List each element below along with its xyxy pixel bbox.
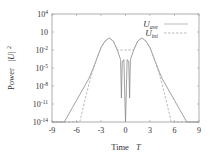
y-tick-label: 10-11 <box>33 99 48 109</box>
x-axis-ticks: -9-6-30369 <box>49 14 201 135</box>
y-tick-label: 10-5 <box>35 63 48 73</box>
x-tick-label: 0 <box>124 126 128 135</box>
x-tick-label: -9 <box>49 126 56 135</box>
x-tick-label: 3 <box>148 126 152 135</box>
y-tick-label: 10 <box>40 28 48 37</box>
y-tick-label: 10-8 <box>35 81 48 91</box>
y-axis-ticks: 1041010-210-510-810-1110-14 <box>33 9 199 127</box>
y-axis-title: Power |U| 2 <box>6 46 16 90</box>
x-tick-label: -6 <box>73 126 80 135</box>
y-tick-label: 10-2 <box>35 45 48 55</box>
x-axis-title: Time T <box>111 142 142 152</box>
y-tick-label: 104 <box>37 9 48 19</box>
x-tick-label: 9 <box>197 126 201 135</box>
power-vs-time-chart: -9-6-30369 1041010-210-510-810-1110-14 T… <box>0 0 210 160</box>
plot-series <box>52 38 199 122</box>
plot-frame <box>52 14 199 122</box>
legend: UaveUini <box>143 19 188 39</box>
y-tick-label: 10-14 <box>33 117 49 127</box>
x-tick-label: 6 <box>173 126 177 135</box>
x-tick-label: -3 <box>98 126 105 135</box>
series-u-ave <box>52 38 199 122</box>
